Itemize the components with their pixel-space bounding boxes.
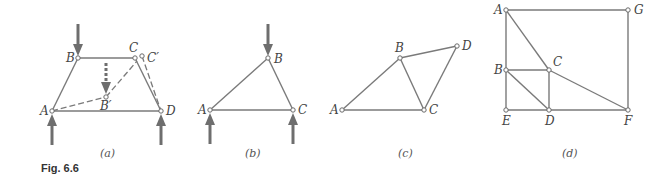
label-d: D xyxy=(544,114,555,128)
label-c-prime: C′ xyxy=(147,51,159,65)
joint-a xyxy=(50,109,54,113)
label-c: C xyxy=(298,103,307,117)
label-b: B xyxy=(493,63,503,77)
label-b: B xyxy=(273,52,283,66)
joint-f xyxy=(626,108,630,112)
joint-b xyxy=(266,56,270,60)
member-ac xyxy=(506,10,549,70)
joint-c xyxy=(422,108,426,112)
member-bd xyxy=(400,46,457,58)
dashed-member-ab-prime xyxy=(52,97,106,111)
reaction-arrow-up-d xyxy=(156,114,166,145)
load-arrow-down-b xyxy=(263,24,273,56)
member-cf xyxy=(549,70,628,110)
joint-g xyxy=(626,8,630,12)
joint-b xyxy=(398,56,402,60)
joint-b xyxy=(76,56,80,60)
joint-c xyxy=(547,68,551,72)
figure-canvas: A B C D B′ C′ (a) A B C (b) xyxy=(0,0,668,177)
label-a: A xyxy=(329,103,339,117)
panel-b-sublabel: (b) xyxy=(245,147,261,160)
joint-a xyxy=(340,108,344,112)
panel-d-sublabel: (d) xyxy=(562,147,578,160)
panel-d: A B C D E F G (d) xyxy=(493,3,644,160)
label-e: E xyxy=(501,114,511,128)
label-d: D xyxy=(461,39,472,53)
joint-d xyxy=(455,44,459,48)
reaction-arrow-up-a xyxy=(205,113,215,144)
member-bc xyxy=(400,58,424,110)
label-c: C xyxy=(553,55,562,69)
label-g: G xyxy=(634,3,644,17)
joint-a xyxy=(504,8,508,12)
panel-c-sublabel: (c) xyxy=(398,147,413,160)
joint-b xyxy=(504,68,508,72)
member-cd xyxy=(135,58,161,111)
member-ab xyxy=(210,58,268,110)
label-a: A xyxy=(197,103,207,117)
label-f: F xyxy=(623,114,633,128)
joint-d xyxy=(159,109,163,113)
joint-a xyxy=(208,108,212,112)
label-d-joint: D xyxy=(165,104,176,118)
label-b-prime: B′ xyxy=(99,99,112,113)
panel-c: A B C D (c) xyxy=(329,39,472,160)
member-ab xyxy=(52,58,78,111)
joint-c xyxy=(133,56,137,60)
label-a: A xyxy=(39,104,49,118)
label-b: B xyxy=(394,41,404,55)
joint-d xyxy=(547,108,551,112)
label-c: C xyxy=(429,103,438,117)
figure-caption: Fig. 6.6 xyxy=(41,162,79,174)
joint-e xyxy=(504,108,508,112)
panel-b: A B C (b) xyxy=(197,24,307,160)
joint-c xyxy=(291,108,295,112)
label-a: A xyxy=(493,3,503,17)
reaction-arrow-up-a xyxy=(47,114,57,145)
panel-a-sublabel: (a) xyxy=(100,147,115,160)
member-cd xyxy=(424,46,457,110)
panel-a: A B C D B′ C′ (a) xyxy=(39,24,176,160)
member-bd xyxy=(506,70,549,110)
joint-c-prime xyxy=(140,54,144,58)
label-c: C xyxy=(129,41,138,55)
member-ab xyxy=(342,58,400,110)
label-b: B xyxy=(65,51,75,65)
load-arrow-dashed-down-b-prime xyxy=(101,63,111,94)
reaction-arrow-up-c xyxy=(288,113,298,144)
dashed-member-b-prime-c-prime xyxy=(106,61,137,97)
